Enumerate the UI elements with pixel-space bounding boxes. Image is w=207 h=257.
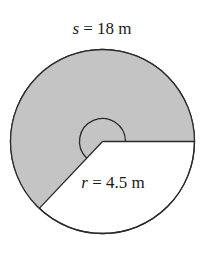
arc-length-label: s = 18 m (72, 19, 131, 38)
radius-equals: = (88, 173, 106, 192)
radius-label: r = 4.5 m (81, 173, 144, 192)
radius-value: 4.5 m (106, 173, 145, 192)
arc-length-value: 18 m (97, 19, 131, 38)
sector-diagram: s = 18 m r = 4.5 m (0, 0, 207, 257)
arc-length-equals: = (79, 19, 97, 38)
